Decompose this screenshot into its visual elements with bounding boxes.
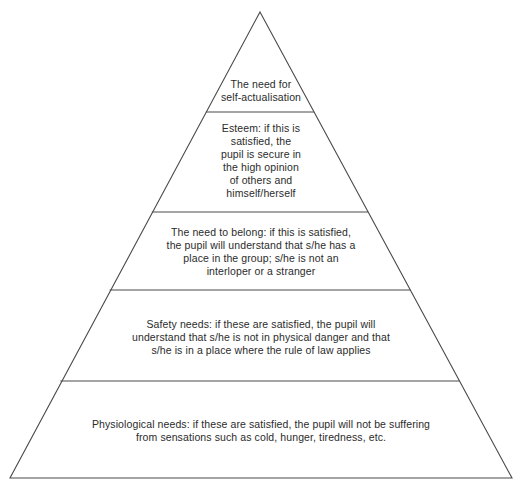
tier-label-belonging: The need to belong: if this is satisfied…	[111, 226, 411, 278]
pyramid-diagram: The need for self-actualisation Esteem: …	[0, 0, 522, 493]
tier-label-physiological: Physiological needs: if these are satisf…	[26, 418, 496, 444]
tier-label-self-actualisation: The need for self-actualisation	[161, 78, 361, 104]
tier-label-esteem: Esteem: if this is satisfied, the pupil …	[181, 122, 341, 200]
tier-label-safety: Safety needs: if these are satisfied, th…	[61, 318, 461, 357]
